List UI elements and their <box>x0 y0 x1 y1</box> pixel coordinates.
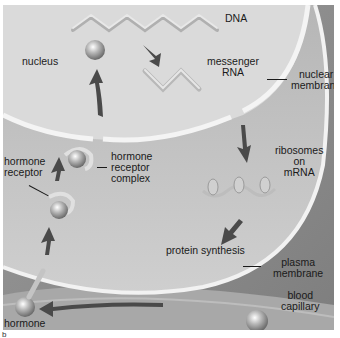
leader-hormone-receptor-complex <box>97 167 107 168</box>
label-nucleus: nucleus <box>22 56 58 67</box>
receptor-hormone-sphere <box>50 201 68 219</box>
hormone-sphere <box>15 297 35 317</box>
label-messenger-rna: messenger RNA <box>207 56 259 78</box>
complex-hormone-sphere <box>68 150 86 168</box>
leader-nuclear-membrane <box>267 79 287 80</box>
label-plasma-membrane: plasma membrane <box>273 257 323 279</box>
diagram-panel: DNA nucleus messenger RNA nuclear membra… <box>3 5 334 330</box>
label-hormone-receptor: hormone receptor <box>4 156 45 178</box>
label-ribosomes-on-mrna: ribosomes on mRNA <box>275 145 323 178</box>
label-dna: DNA <box>225 13 247 24</box>
label-hormone-receptor-complex: hormone receptor complex <box>111 151 152 184</box>
label-blood-capillary: blood capillary <box>281 290 320 312</box>
label-nuclear-membrane: nuclear membrane <box>291 69 334 91</box>
label-hormone: hormone <box>4 318 45 329</box>
leader-plasma-membrane <box>243 266 261 267</box>
label-protein-synthesis: protein synthesis <box>166 245 245 256</box>
bound-complex-sphere <box>85 40 105 60</box>
panel-marker: b <box>2 330 6 338</box>
